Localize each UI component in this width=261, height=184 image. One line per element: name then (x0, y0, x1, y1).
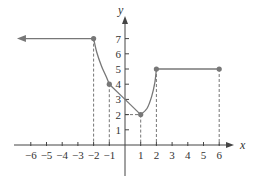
graph-point (217, 66, 222, 71)
x-tick-label: −3 (72, 149, 84, 161)
x-tick-label: −2 (88, 149, 100, 161)
y-axis-label: y (117, 3, 124, 17)
y-tick-label: 6 (116, 48, 122, 60)
y-tick-label: 4 (116, 78, 122, 90)
x-tick-label: 1 (138, 149, 144, 161)
x-axis-label: x (239, 138, 246, 152)
x-tick-label: −4 (56, 149, 68, 161)
y-tick-label: 1 (116, 124, 122, 136)
x-tick-label: 5 (201, 149, 207, 161)
x-tick-label: 3 (169, 149, 175, 161)
graph-curve-decreasing (94, 39, 110, 85)
y-tick-label: 7 (116, 33, 122, 45)
x-tick-label: 4 (185, 149, 191, 161)
function-graph: −6−5−4−3−2−11234561234567 x y (0, 0, 261, 184)
x-tick-label: 2 (154, 149, 160, 161)
dashed-guides (94, 39, 220, 145)
x-axis-arrow-icon (226, 142, 234, 148)
x-tick-label: −1 (103, 149, 115, 161)
ray-arrow-left-icon (17, 35, 26, 42)
x-tick-label: −5 (41, 149, 53, 161)
graph-point (154, 66, 159, 71)
graph-point (107, 82, 112, 87)
graph-point (91, 36, 96, 41)
x-tick-label: 6 (216, 149, 222, 161)
y-axis-arrow-icon (122, 16, 128, 24)
ticks: −6−5−4−3−2−11234561234567 (25, 33, 223, 161)
x-tick-label: −6 (25, 149, 37, 161)
y-tick-label: 5 (116, 63, 122, 75)
graph-point (138, 112, 143, 117)
y-tick-label: 2 (116, 109, 122, 121)
graph-curve-increasing (141, 69, 157, 115)
